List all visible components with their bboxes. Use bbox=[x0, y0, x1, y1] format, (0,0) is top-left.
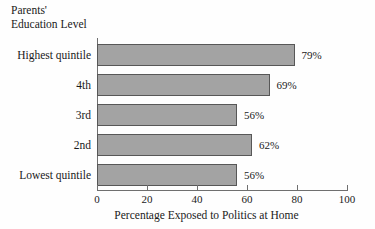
x-tick-label: 20 bbox=[127, 192, 167, 207]
category-label: Lowest quintile bbox=[0, 167, 91, 183]
bar-row: 69% bbox=[97, 74, 347, 96]
bar-row: 56% bbox=[97, 164, 347, 186]
bar bbox=[97, 44, 295, 66]
x-tick-label: 0 bbox=[77, 192, 117, 207]
x-tick-mark bbox=[247, 185, 248, 191]
x-tick-mark bbox=[297, 185, 298, 191]
category-label: 3rd bbox=[0, 107, 91, 123]
x-axis-title: Percentage Exposed to Politics at Home bbox=[0, 208, 375, 223]
y-axis-title: Parents' Education Level bbox=[11, 4, 171, 31]
bar bbox=[97, 104, 237, 126]
category-label: 4th bbox=[0, 77, 91, 93]
bar-row: 62% bbox=[97, 134, 347, 156]
x-tick-label: 80 bbox=[277, 192, 317, 207]
x-tick-label: 100 bbox=[327, 192, 367, 207]
bar-value-label: 62% bbox=[259, 137, 279, 153]
x-axis-line bbox=[97, 190, 348, 191]
x-tick-mark bbox=[347, 185, 348, 191]
x-tick-mark bbox=[147, 185, 148, 191]
bar-row: 79% bbox=[97, 44, 347, 66]
bar-value-label: 56% bbox=[244, 167, 264, 183]
x-tick-label: 40 bbox=[177, 192, 217, 207]
category-label: Highest quintile bbox=[0, 47, 91, 63]
bar bbox=[97, 74, 270, 96]
bar-chart: Parents' Education Level 79%69%56%62%56%… bbox=[0, 0, 375, 229]
x-tick-mark bbox=[197, 185, 198, 191]
bar-value-label: 69% bbox=[277, 77, 297, 93]
bar-row: 56% bbox=[97, 104, 347, 126]
bar-value-label: 56% bbox=[244, 107, 264, 123]
bar-value-label: 79% bbox=[302, 47, 322, 63]
x-tick-label: 60 bbox=[227, 192, 267, 207]
category-label: 2nd bbox=[0, 137, 91, 153]
x-tick-mark bbox=[97, 185, 98, 191]
bar bbox=[97, 164, 237, 186]
bar bbox=[97, 134, 252, 156]
